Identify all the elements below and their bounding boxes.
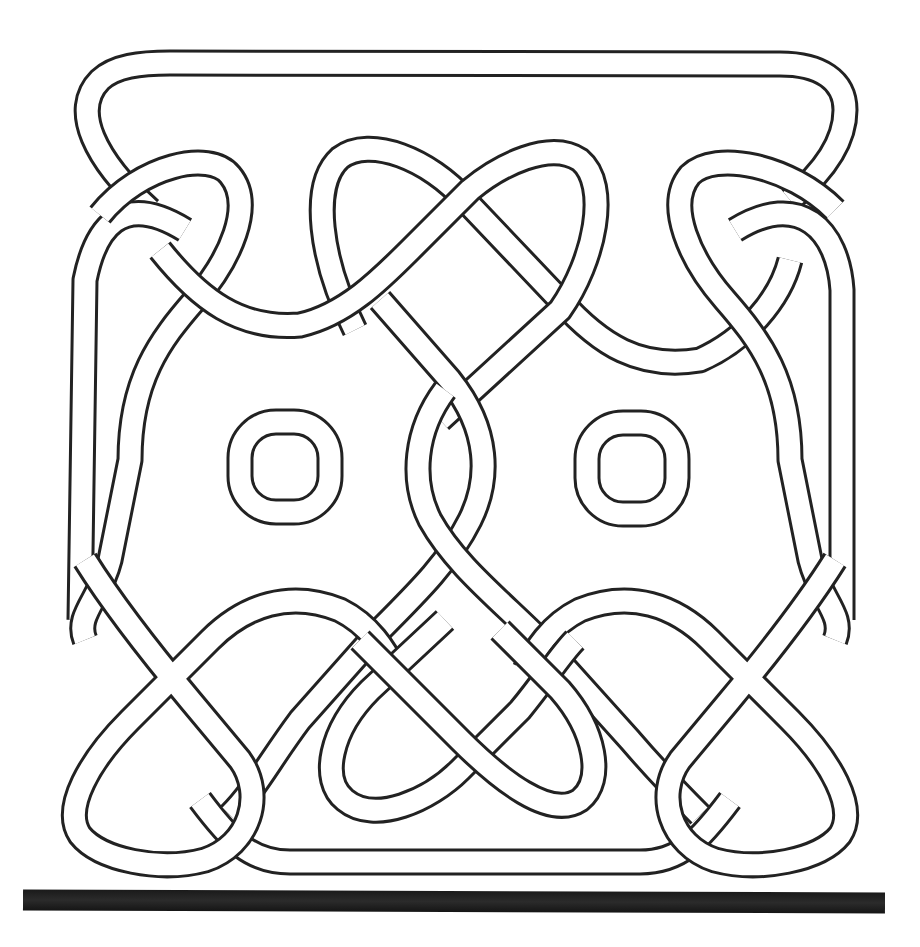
base-bar — [23, 889, 885, 913]
celtic-knot-drawing — [0, 0, 920, 947]
left-center-ring — [240, 422, 330, 512]
right-center-ring — [587, 423, 677, 514]
bottom-frame-band — [200, 800, 730, 862]
